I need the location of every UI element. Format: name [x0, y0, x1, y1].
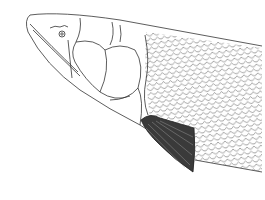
fish-illustration [0, 0, 265, 200]
fish-drawing [0, 0, 265, 200]
